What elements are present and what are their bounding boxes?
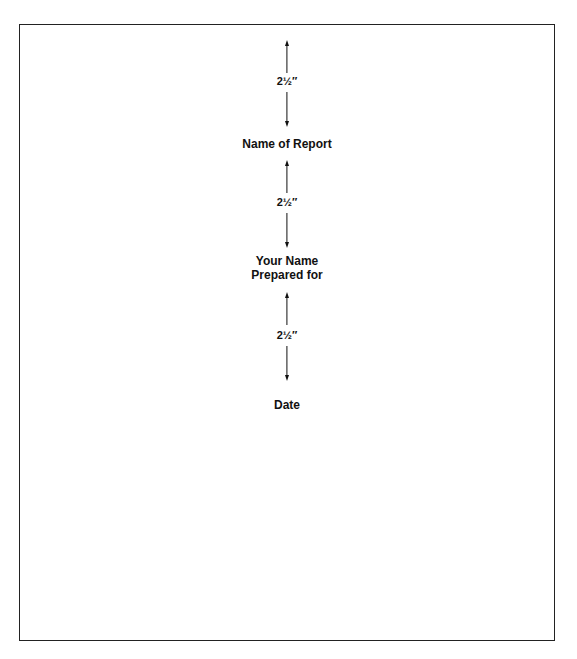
dimension-line [286,45,287,73]
author-name-label: Your Name [256,254,318,268]
spacing-measure-2: 2½″ [277,196,298,208]
spacing-measure-1: 2½″ [277,75,298,87]
arrow-down-icon [285,375,289,381]
dimension-line [286,165,287,193]
spacing-measure-3: 2½″ [277,329,298,341]
date-label: Date [274,398,300,412]
dimension-line [286,213,287,243]
dimension-line [286,92,287,122]
dimension-line [286,297,287,325]
arrow-down-icon [285,121,289,127]
arrow-down-icon [285,242,289,248]
report-name-label: Name of Report [242,137,331,151]
prepared-for-label: Prepared for [251,268,322,282]
dimension-line [286,346,287,376]
